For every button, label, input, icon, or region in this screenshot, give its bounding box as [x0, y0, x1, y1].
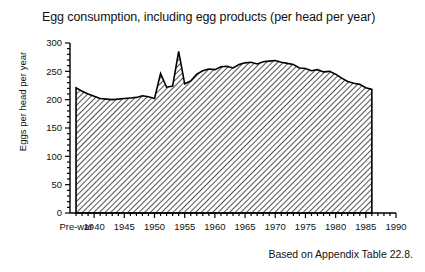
svg-text:100: 100 [46, 151, 62, 162]
svg-text:150: 150 [46, 122, 62, 133]
svg-text:1970: 1970 [265, 221, 286, 232]
svg-text:1940: 1940 [84, 221, 105, 232]
svg-text:1960: 1960 [204, 221, 225, 232]
svg-text:1945: 1945 [114, 221, 135, 232]
plot-area: 050100150200250300Pre-war194019451950195… [0, 0, 425, 272]
svg-text:250: 250 [46, 66, 62, 77]
svg-text:300: 300 [46, 37, 62, 48]
svg-text:1985: 1985 [355, 221, 376, 232]
data-area [76, 52, 372, 214]
figure-caption: Based on Appendix Table 22.8. [268, 248, 413, 260]
y-axis-ticks: 050100150200250300 [46, 37, 70, 218]
svg-text:200: 200 [46, 94, 62, 105]
egg-consumption-chart: Egg consumption, including egg products … [0, 0, 425, 272]
y-axis-label: Eggs per head per year [17, 32, 28, 172]
svg-text:1990: 1990 [385, 221, 406, 232]
x-axis-ticks: Pre-war194019451950195519601965197019751… [59, 213, 406, 232]
chart-title: Egg consumption, including egg products … [42, 10, 375, 24]
svg-text:1950: 1950 [144, 221, 165, 232]
svg-text:1980: 1980 [325, 221, 346, 232]
svg-text:1965: 1965 [235, 221, 256, 232]
svg-text:0: 0 [57, 207, 62, 218]
svg-text:1955: 1955 [174, 221, 195, 232]
svg-text:50: 50 [51, 179, 62, 190]
svg-text:1975: 1975 [295, 221, 316, 232]
